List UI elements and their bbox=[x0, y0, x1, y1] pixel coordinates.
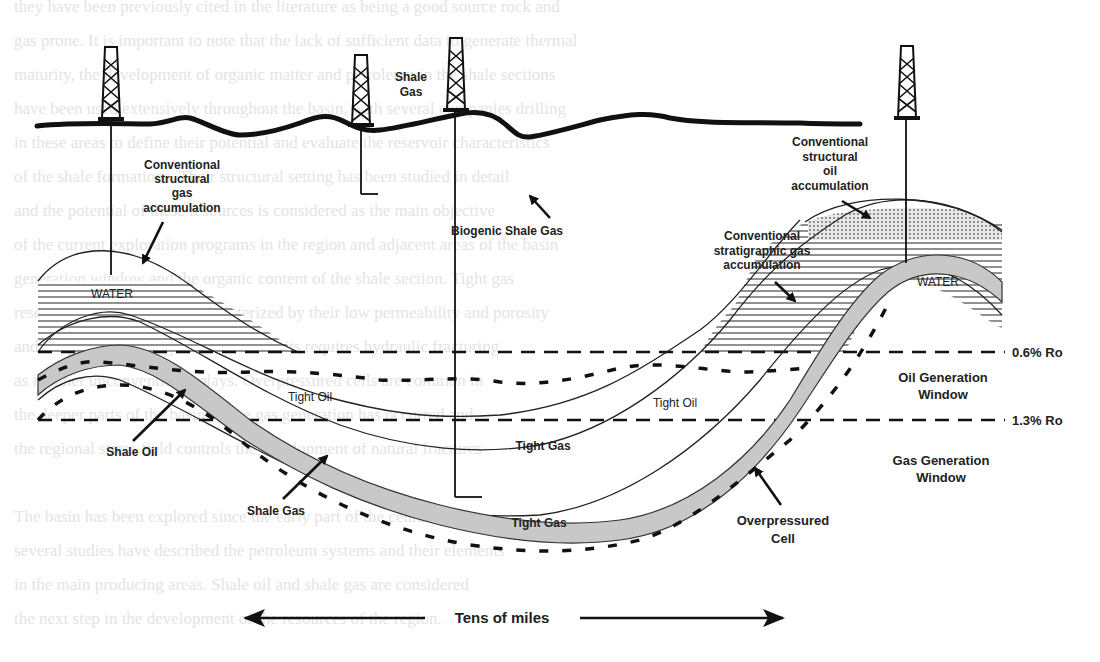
label-shale-oil: Shale Oil bbox=[106, 445, 157, 459]
bleed-line: gas prone. It is important to note that … bbox=[14, 31, 578, 50]
bleed-line: several studies have described the petro… bbox=[14, 541, 505, 560]
svg-text:Cell: Cell bbox=[771, 531, 795, 546]
svg-text:Conventional: Conventional bbox=[144, 158, 220, 172]
oil-cap-right bbox=[808, 208, 1002, 240]
label-conv-structural-gas: Conventional structural gas accumulation bbox=[143, 158, 220, 215]
svg-text:accumulation: accumulation bbox=[723, 258, 800, 272]
bleed-line: in the main producing areas. Shale oil a… bbox=[14, 575, 470, 594]
label-ro-0-6: 0.6% Ro bbox=[1012, 345, 1063, 360]
label-overpressured-cell: Overpressured Cell bbox=[737, 513, 830, 546]
label-gas-generation-window: Gas Generation Window bbox=[893, 453, 990, 485]
label-water-right: WATER bbox=[917, 275, 959, 289]
label-water-left: WATER bbox=[91, 287, 133, 301]
svg-text:Overpressured: Overpressured bbox=[737, 513, 830, 528]
label-biogenic-shale-gas: Biogenic Shale Gas bbox=[451, 224, 563, 238]
label-tight-gas-upper: Tight Gas bbox=[515, 439, 570, 453]
label-shale-gas-surface: Gas bbox=[400, 85, 423, 99]
svg-text:Gas Generation: Gas Generation bbox=[893, 453, 990, 468]
arrow-overpressured-cell bbox=[755, 468, 781, 505]
svg-text:Window: Window bbox=[916, 470, 967, 485]
bleed-line: in these areas to define their potential… bbox=[14, 133, 550, 152]
svg-text:Conventional: Conventional bbox=[792, 135, 868, 149]
label-tight-gas-lower: Tight Gas bbox=[511, 516, 566, 530]
svg-text:structural: structural bbox=[802, 150, 857, 164]
svg-text:gas: gas bbox=[172, 186, 193, 200]
label-shale-gas: Shale Gas bbox=[247, 504, 305, 518]
svg-text:accumulation: accumulation bbox=[791, 179, 868, 193]
bleed-line: maturity, the development of organic mat… bbox=[14, 65, 555, 84]
label-conv-structural-oil: Conventional structural oil accumulation bbox=[791, 135, 868, 193]
label-ro-1-3: 1.3% Ro bbox=[1012, 413, 1063, 428]
bleed-line: and the potential of these resources is … bbox=[14, 201, 495, 220]
svg-text:Window: Window bbox=[918, 387, 969, 402]
svg-text:Conventional: Conventional bbox=[724, 229, 800, 243]
label-tight-oil-left: Tight Oil bbox=[288, 390, 332, 404]
svg-text:oil: oil bbox=[823, 164, 837, 178]
bleed-line: of the shale formations. Their structura… bbox=[14, 167, 510, 186]
label-oil-generation-window: Oil Generation Window bbox=[898, 370, 988, 402]
svg-text:structural: structural bbox=[154, 172, 209, 186]
shale-resource-cross-section-diagram: they have been previously cited in the l… bbox=[0, 0, 1100, 662]
svg-text:Oil Generation: Oil Generation bbox=[898, 370, 988, 385]
bleed-line: as in other unconventional plays. Overpr… bbox=[14, 371, 484, 390]
label-conv-stratigraphic-gas: Conventional stratigraphic gas accumulat… bbox=[714, 229, 811, 272]
label-tight-oil-center: Tight Oil bbox=[653, 396, 697, 410]
bleed-line: they have been previously cited in the l… bbox=[14, 0, 560, 16]
label-scale: Tens of miles bbox=[455, 609, 550, 626]
derrick-icon bbox=[894, 46, 920, 120]
svg-text:stratigraphic gas: stratigraphic gas bbox=[714, 244, 811, 258]
arrow-biogenic-shale-gas bbox=[530, 196, 550, 218]
svg-text:accumulation: accumulation bbox=[143, 201, 220, 215]
label-shale-gas-surface: Shale bbox=[395, 70, 427, 84]
